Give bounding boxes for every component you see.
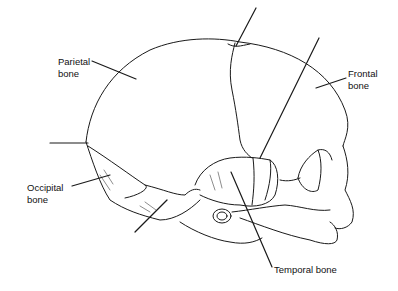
label-text: Parietal (58, 56, 90, 68)
label-text: Frontal (348, 68, 378, 80)
label-occipital-bone: Occipital bone (27, 182, 63, 206)
label-temporal-bone: Temporal bone (274, 264, 337, 276)
skull-diagram: Parietal bone Frontal bone Occipital bon… (0, 0, 398, 291)
pointer-unlabeled-4 (135, 200, 167, 232)
pointer-parietal (92, 61, 136, 79)
label-text: bone (348, 80, 378, 92)
label-text: bone (27, 194, 63, 206)
pointer-occipital (72, 175, 110, 186)
pointer-unlabeled-2 (260, 38, 319, 158)
skull-outline (86, 39, 348, 146)
label-text: bone (58, 68, 90, 80)
label-frontal-bone: Frontal bone (348, 68, 378, 92)
label-text: Temporal bone (274, 264, 337, 276)
label-parietal-bone: Parietal bone (58, 56, 90, 80)
label-text: Occipital (27, 182, 63, 194)
pointer-temporal (231, 172, 272, 267)
pointer-frontal (316, 78, 346, 88)
skull-illustration (0, 0, 398, 291)
pointer-unlabeled-1 (236, 8, 256, 46)
